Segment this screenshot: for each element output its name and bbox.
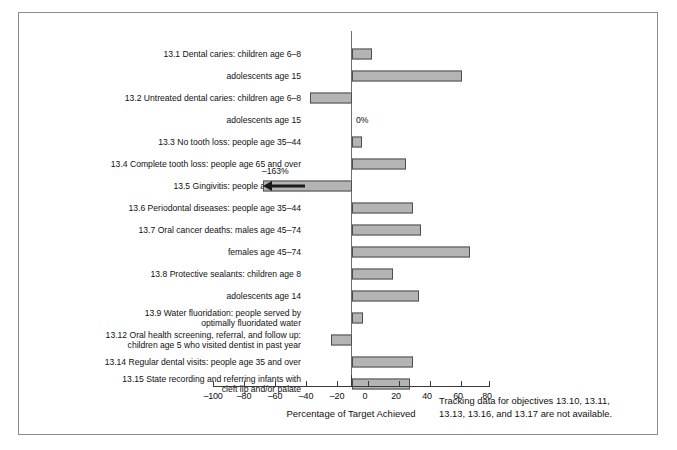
offscale-arrow-icon (263, 181, 272, 191)
bar-row: adolescents age 14 (19, 285, 657, 307)
bar-value (352, 71, 462, 82)
bar-row: 13.7 Oral cancer deaths: males age 45–74 (19, 219, 657, 241)
x-axis-tick-label: –100 (203, 391, 222, 401)
x-axis-tick (213, 381, 214, 387)
bar-value (331, 335, 352, 346)
x-axis-tick-label: –80 (237, 391, 251, 401)
bar-category-label: 13.7 Oral cancer deaths: males age 45–74 (139, 225, 301, 235)
x-axis-tick (399, 381, 400, 387)
bar-value (352, 313, 363, 324)
bar-row: 13.4 Complete tooth loss: people age 65 … (19, 153, 657, 175)
x-axis-tick-label: 20 (391, 391, 401, 401)
bar-row: 13.8 Protective sealants: children age 8 (19, 263, 657, 285)
bar-row: 13.9 Water fluoridation: people served b… (19, 307, 657, 329)
bar-category-label: adolescents age 14 (226, 291, 301, 301)
bar-category-label: females age 45–74 (228, 247, 301, 257)
bar-value (352, 225, 421, 236)
bar-value (352, 247, 470, 258)
plot-area: 13.1 Dental caries: children age 6–8 ado… (19, 13, 657, 434)
bar-row: 13.1 Dental caries: children age 6–8 (19, 43, 657, 65)
x-axis-tick (275, 381, 276, 387)
bar-row: 13.2 Untreated dental caries: children a… (19, 87, 657, 109)
bar-row: females age 45–74 (19, 241, 657, 263)
x-axis-tick (489, 381, 490, 387)
bar-value (310, 93, 352, 104)
x-axis-tick-label: –20 (330, 391, 344, 401)
x-axis-tick-label: –60 (268, 391, 282, 401)
x-axis-tick-label: 40 (422, 391, 432, 401)
bar-value (352, 379, 410, 390)
zero-value-annotation: 0% (356, 115, 368, 125)
bar-value (352, 203, 413, 214)
bar-category-label: 13.6 Periodontal diseases: people age 35… (129, 203, 302, 213)
bar-category-label: 13.3 No tooth loss: people age 35–44 (158, 137, 301, 147)
bar-category-label: 13.2 Untreated dental caries: children a… (125, 93, 301, 103)
bar-row: 13.6 Periodontal diseases: people age 35… (19, 197, 657, 219)
bar-row: 13.14 Regular dental visits: people age … (19, 351, 657, 373)
x-axis-tick (337, 381, 338, 387)
x-axis-tick (430, 381, 431, 387)
x-axis-tick-zero (351, 375, 352, 387)
x-axis-tick-label: –40 (299, 391, 313, 401)
bar-value (352, 291, 419, 302)
x-axis-tick (368, 381, 369, 387)
chart-frame: 13.1 Dental caries: children age 6–8 ado… (18, 12, 658, 435)
bar-category-label: 13.12 Oral health screening, referral, a… (106, 330, 301, 350)
chart-footnote: Tracking data for objectives 13.10, 13.1… (439, 395, 612, 420)
bar-category-label: 13.1 Dental caries: children age 6–8 (163, 49, 301, 59)
x-axis-tick (244, 381, 245, 387)
x-axis-tick (461, 381, 462, 387)
bar-value (352, 357, 413, 368)
bar-row: adolescents age 15 (19, 65, 657, 87)
bar-category-label: 13.14 Regular dental visits: people age … (105, 357, 301, 367)
bar-category-label: adolescents age 15 (226, 115, 301, 125)
bar-value (352, 269, 393, 280)
bar-value (352, 137, 362, 148)
bar-row: adolescents age 15 0% (19, 109, 657, 131)
x-axis-tick-label: 0 (363, 391, 368, 401)
x-axis-title: Percentage of Target Achieved (286, 408, 415, 419)
offscale-arrow-stem (271, 185, 305, 188)
bar-category-label: adolescents age 15 (226, 71, 301, 81)
bar-row: 13.12 Oral health screening, referral, a… (19, 329, 657, 351)
bar-category-label: 13.9 Water fluoridation: people served b… (145, 308, 301, 328)
bar-row: 13.3 No tooth loss: people age 35–44 (19, 131, 657, 153)
x-axis-tick (306, 381, 307, 387)
offscale-value-annotation: –163% (262, 166, 289, 176)
bar-row-offscale: 13.5 Gingivitis: people age 35–44 –163% (19, 175, 657, 197)
bar-value (352, 49, 372, 60)
bar-category-label: 13.8 Protective sealants: children age 8 (151, 269, 301, 279)
bar-value (352, 159, 406, 170)
